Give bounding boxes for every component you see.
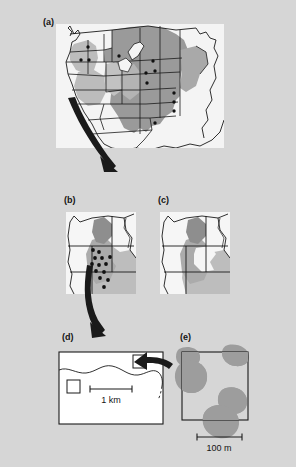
site-marker [108,255,112,259]
site-marker [98,276,102,280]
panel-c-label: (c) [158,195,169,205]
site-marker [145,81,148,84]
site-marker [102,285,106,289]
site-marker [117,54,120,57]
site-marker [87,58,90,61]
panel-c-map [160,212,230,294]
site-marker [153,121,156,124]
site-marker [90,262,94,266]
site-marker [172,109,175,112]
site-marker [144,71,147,74]
panel-d-plot-square-middle-left [67,380,80,393]
site-marker [79,58,82,61]
site-marker [100,256,104,260]
site-marker [172,91,175,94]
panel-e-label: (e) [180,332,191,342]
site-marker [102,270,106,274]
panel-b-label: (b) [64,195,76,205]
panel-d-label: (d) [62,332,74,342]
site-marker [106,278,110,282]
site-marker [93,256,97,260]
site-marker [104,262,108,266]
panel-b-map [66,212,136,294]
site-marker [153,69,156,72]
panel-e-scale-label: 100 m [206,443,231,453]
site-marker [151,59,154,62]
panel-d-scale-label: 1 km [101,395,121,405]
multi-panel-figure: (a) [0,0,296,467]
panel-a-label: (a) [43,17,54,27]
panel-a-map [56,24,224,150]
site-marker [86,45,89,48]
site-marker [91,248,95,252]
site-marker [172,100,175,103]
site-marker [94,269,98,273]
site-marker [97,263,101,267]
site-marker [97,250,101,254]
